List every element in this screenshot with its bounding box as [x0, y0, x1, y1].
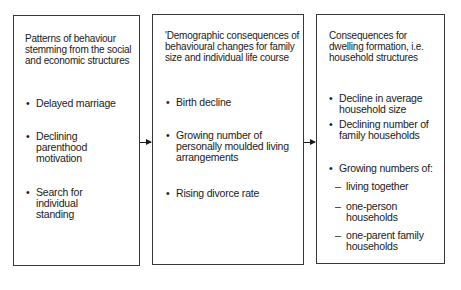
- bullet-icon: •: [166, 130, 169, 141]
- bullet-icon: •: [26, 98, 29, 109]
- list-item: • Growing number of personally moulded l…: [166, 130, 296, 163]
- bullet-icon: •: [26, 131, 29, 142]
- list-item: • Decline in average household size: [329, 93, 449, 115]
- bullet-icon: •: [166, 97, 169, 108]
- list-item: • Declining parenthood motivation: [26, 131, 106, 164]
- list-item: • Rising divorce rate: [166, 188, 306, 199]
- arrow-right-icon: [304, 142, 315, 143]
- sub-list-item: – one-parent family households: [335, 230, 441, 252]
- dash-icon: –: [335, 230, 341, 241]
- box-demographic-consequences: 'Demographic consequences of behavioural…: [152, 14, 304, 265]
- list-item: • Birth decline: [166, 97, 296, 108]
- box-behaviour-patterns: Patterns of behaviour stemming from the …: [13, 15, 140, 266]
- list-item: • Delayed marriage: [26, 98, 146, 109]
- list-item: • Growing numbers of:: [329, 163, 451, 174]
- bullet-icon: •: [329, 163, 332, 174]
- sub-list-item: – living together: [335, 181, 446, 192]
- box-title: Consequences for dwelling formation, i.e…: [329, 30, 441, 63]
- bullet-icon: •: [26, 187, 29, 198]
- box-household-consequences: Consequences for dwelling formation, i.e…: [316, 14, 445, 264]
- arrow-right-icon: [140, 142, 151, 143]
- bullet-icon: •: [329, 119, 332, 130]
- list-item: • Search for individual standing: [26, 187, 96, 220]
- box-title: Patterns of behaviour stemming from the …: [25, 33, 137, 66]
- bullet-icon: •: [329, 93, 332, 104]
- dash-icon: –: [335, 201, 341, 212]
- list-item: • Declining number of family households: [329, 119, 449, 141]
- sub-list-item: – one-person households: [335, 201, 416, 223]
- bullet-icon: •: [166, 188, 169, 199]
- box-title: 'Demographic consequences of behavioural…: [165, 30, 305, 63]
- dash-icon: –: [335, 181, 341, 192]
